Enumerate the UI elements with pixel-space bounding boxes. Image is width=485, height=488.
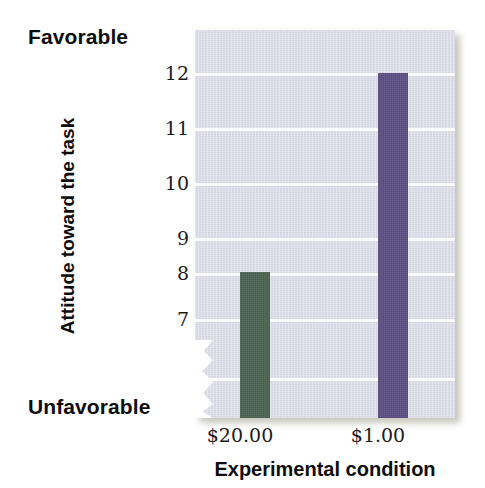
x-axis-title: Experimental condition <box>175 458 475 481</box>
y-tick-9: 9 <box>149 229 189 248</box>
gridline-7 <box>195 319 455 322</box>
y-tick-11: 11 <box>149 119 189 138</box>
gridline-12 <box>195 73 455 76</box>
y-axis-ticks: 12 11 10 9 8 7 <box>145 30 189 418</box>
y-tick-10: 10 <box>149 174 189 193</box>
gridline-11 <box>195 128 455 131</box>
gridline-break-low <box>195 378 455 381</box>
bar-chart-figure: 12 11 10 9 8 7 $20.00 $1.00 Favorable Un… <box>0 0 485 488</box>
y-tick-7: 7 <box>149 310 189 329</box>
unfavorable-anchor-label: Unfavorable <box>28 395 150 419</box>
gridline-10 <box>195 183 455 186</box>
gridline-9 <box>195 238 455 241</box>
y-tick-8: 8 <box>149 264 189 283</box>
bar-20-dollars <box>240 272 270 418</box>
gridline-8 <box>195 273 455 276</box>
x-tick-20-dollars: $20.00 <box>195 424 285 446</box>
bar-texture <box>378 73 408 418</box>
bar-1-dollar <box>378 73 408 418</box>
favorable-anchor-label: Favorable <box>28 25 128 49</box>
x-tick-1-dollar: $1.00 <box>333 424 423 446</box>
bar-texture <box>240 272 270 418</box>
y-tick-12: 12 <box>149 64 189 83</box>
plot-area <box>195 30 455 418</box>
y-axis-title: Attitude toward the task <box>57 96 79 356</box>
